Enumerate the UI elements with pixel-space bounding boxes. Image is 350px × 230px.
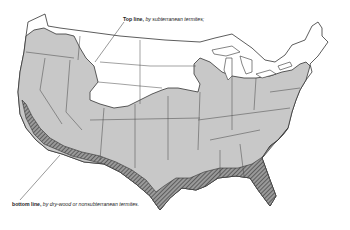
top-line-label-bold: Top line,: [123, 16, 144, 22]
top-line-label-italic: by subterranean termites;: [144, 16, 204, 22]
termite-map: [0, 0, 350, 230]
bottom-line-label: bottom line, by dry-wood or nonsubterran…: [12, 202, 139, 207]
bottom-line-label-bold: bottom line,: [12, 201, 41, 207]
bottom-leader-line: [20, 155, 60, 200]
bottom-line-label-italic: by dry-wood or nonsubterranean termites.: [41, 201, 139, 207]
top-line-label: Top line, by subterranean termites;: [123, 17, 204, 22]
